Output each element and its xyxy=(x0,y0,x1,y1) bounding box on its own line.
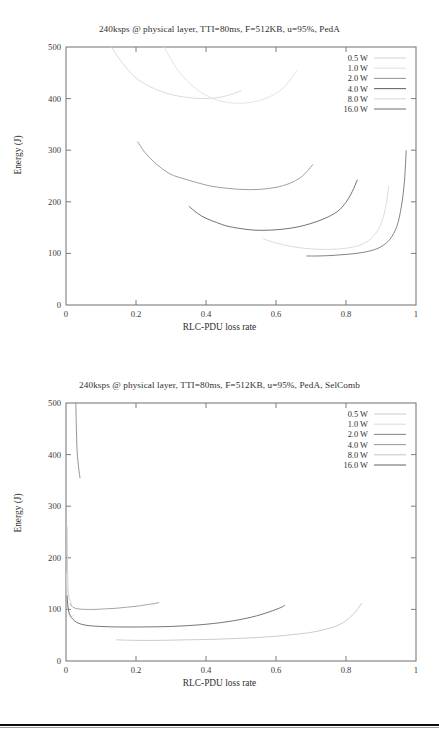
series-line xyxy=(70,603,159,610)
x-tick-label: 0.8 xyxy=(341,665,352,675)
figure-top: 240ksps @ physical layer, TTI=80ms, F=51… xyxy=(0,0,439,360)
x-tick-label: 0.6 xyxy=(271,665,282,675)
legend: 0.5 W1.0 W2.0 W4.0 W8.0 W16.0 W xyxy=(343,54,406,114)
legend-label: 0.5 W xyxy=(348,410,368,419)
series-line xyxy=(67,527,71,602)
series-line xyxy=(138,142,313,190)
series-line xyxy=(76,403,80,478)
legend-label: 4.0 W xyxy=(348,85,368,94)
x-tick-label: 0 xyxy=(64,309,68,319)
series-line xyxy=(67,596,285,627)
legend-label: 8.0 W xyxy=(348,95,368,104)
x-tick-label: 0.6 xyxy=(271,309,282,319)
page-bottom-rule xyxy=(0,724,439,726)
series-line xyxy=(117,603,362,640)
y-tick-label: 300 xyxy=(48,501,61,511)
x-tick-label: 1 xyxy=(414,309,418,319)
y-tick-label: 300 xyxy=(48,145,61,155)
y-tick-label: 200 xyxy=(48,553,61,563)
legend-label: 16.0 W xyxy=(343,461,368,470)
legend-label: 1.0 W xyxy=(348,420,368,429)
y-tick-label: 0 xyxy=(57,656,61,666)
x-tick-label: 1 xyxy=(414,665,418,675)
figure-bottom: 240ksps @ physical layer, TTI=80ms, F=51… xyxy=(0,362,439,722)
legend-label: 1.0 W xyxy=(348,64,368,73)
y-tick-label: 0 xyxy=(57,300,61,310)
legend-label: 4.0 W xyxy=(348,441,368,450)
y-tick-label: 500 xyxy=(48,42,61,52)
y-tick-label: 400 xyxy=(48,94,61,104)
y-tick-label: 200 xyxy=(48,197,61,207)
legend-label: 2.0 W xyxy=(348,74,368,83)
y-tick-label: 400 xyxy=(48,450,61,460)
plot-area-bottom: 00.20.40.60.8101002003004005000.5 W1.0 W… xyxy=(0,362,439,722)
legend-label: 8.0 W xyxy=(348,451,368,460)
y-tick-label: 100 xyxy=(48,248,61,258)
y-tick-label: 100 xyxy=(48,604,61,614)
plot-area-top: 00.20.40.60.8101002003004005000.5 W1.0 W… xyxy=(0,0,439,360)
legend-label: 2.0 W xyxy=(348,430,368,439)
x-tick-label: 0.2 xyxy=(131,665,142,675)
x-tick-label: 0.4 xyxy=(201,309,212,319)
legend: 0.5 W1.0 W2.0 W4.0 W8.0 W16.0 W xyxy=(343,410,406,470)
y-tick-label: 500 xyxy=(48,398,61,408)
legend-label: 16.0 W xyxy=(343,105,368,114)
x-tick-label: 0 xyxy=(64,665,68,675)
series-line xyxy=(112,47,242,99)
x-tick-label: 0.2 xyxy=(131,309,142,319)
x-tick-label: 0.8 xyxy=(341,309,352,319)
legend-label: 0.5 W xyxy=(348,54,368,63)
series-line xyxy=(307,151,406,256)
page-bottom-rule-secondary xyxy=(0,727,439,728)
x-tick-label: 0.4 xyxy=(201,665,212,675)
